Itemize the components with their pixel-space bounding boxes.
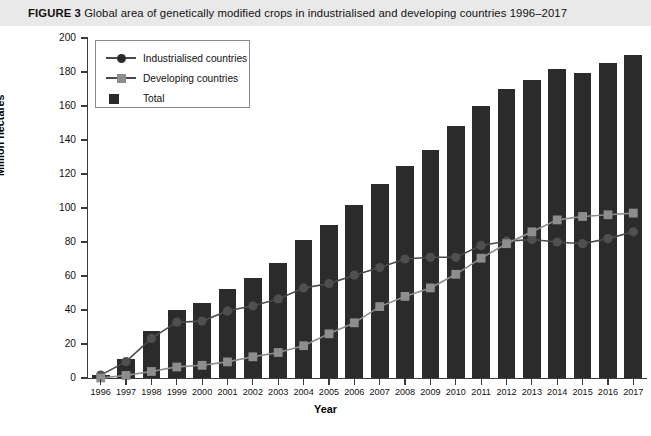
x-axis-tick-label-2010: 2010 bbox=[442, 387, 470, 397]
square-line-marker-icon bbox=[106, 71, 136, 85]
x-axis-tick-label-2011: 2011 bbox=[467, 387, 495, 397]
x-axis-tick bbox=[202, 379, 203, 385]
marker-developing-countries-2013 bbox=[528, 227, 537, 236]
marker-developing-countries-2012 bbox=[502, 239, 511, 248]
marker-developing-countries-2015 bbox=[578, 212, 587, 221]
marker-industrialised-countries-2001 bbox=[223, 306, 232, 315]
x-axis-tick bbox=[481, 379, 482, 385]
y-axis-tick-label: 200 bbox=[42, 33, 76, 43]
marker-industrialised-countries-2004 bbox=[299, 283, 308, 292]
line-industrialised-countries bbox=[101, 232, 634, 375]
marker-developing-countries-2007 bbox=[375, 302, 384, 311]
legend-label-total: Total bbox=[143, 93, 165, 104]
y-axis-tick bbox=[81, 105, 88, 106]
marker-developing-countries-2016 bbox=[604, 210, 613, 219]
x-axis-tick-label-2008: 2008 bbox=[391, 387, 419, 397]
line-developing-countries bbox=[101, 213, 634, 378]
y-axis-tick bbox=[81, 343, 88, 344]
x-axis-tick bbox=[404, 379, 405, 385]
y-axis-tick-label: 40 bbox=[42, 305, 76, 315]
y-axis-tick-label: 120 bbox=[42, 169, 76, 179]
y-axis-tick bbox=[81, 309, 88, 310]
y-axis-tick-label: 100 bbox=[42, 203, 76, 213]
y-axis-tick-label: 80 bbox=[42, 237, 76, 247]
marker-industrialised-countries-2008 bbox=[400, 254, 409, 263]
y-axis-tick bbox=[81, 139, 88, 140]
chart-legend: Industrialised countries Developing coun… bbox=[95, 40, 250, 108]
y-axis-tick bbox=[81, 71, 88, 72]
x-axis-tick bbox=[100, 379, 101, 385]
marker-industrialised-countries-1999 bbox=[172, 318, 181, 327]
y-axis-tick-label: 160 bbox=[42, 101, 76, 111]
marker-industrialised-countries-2011 bbox=[477, 241, 486, 250]
marker-industrialised-countries-2017 bbox=[629, 227, 638, 236]
y-axis-tick bbox=[81, 241, 88, 242]
legend-item-total: Total bbox=[106, 88, 249, 108]
x-axis-tick-label-1996: 1996 bbox=[87, 387, 115, 397]
y-axis-tick bbox=[81, 377, 88, 378]
x-axis-tick bbox=[354, 379, 355, 385]
x-axis-tick bbox=[531, 379, 532, 385]
filled-square-marker-icon bbox=[106, 91, 136, 105]
x-axis-tick bbox=[557, 379, 558, 385]
marker-industrialised-countries-1998 bbox=[147, 334, 156, 343]
marker-developing-countries-2008 bbox=[401, 292, 410, 301]
x-axis-tick bbox=[278, 379, 279, 385]
marker-developing-countries-1999 bbox=[172, 363, 181, 372]
x-axis-tick-label-2014: 2014 bbox=[543, 387, 571, 397]
y-axis-tick-label: 20 bbox=[42, 339, 76, 349]
x-axis-tick-label-2002: 2002 bbox=[239, 387, 267, 397]
x-axis-tick bbox=[379, 379, 380, 385]
marker-industrialised-countries-2014 bbox=[553, 237, 562, 246]
marker-industrialised-countries-2015 bbox=[578, 239, 587, 248]
figure-caption-text: Global area of genetically modified crop… bbox=[84, 7, 567, 19]
marker-developing-countries-2010 bbox=[451, 270, 460, 279]
y-axis-tick bbox=[81, 37, 88, 38]
x-axis-tick bbox=[430, 379, 431, 385]
x-axis-tick bbox=[582, 379, 583, 385]
marker-industrialised-countries-2010 bbox=[451, 253, 460, 262]
marker-developing-countries-1998 bbox=[147, 367, 156, 376]
marker-industrialised-countries-2009 bbox=[426, 253, 435, 262]
x-axis-tick-label-2004: 2004 bbox=[290, 387, 318, 397]
marker-industrialised-countries-2000 bbox=[198, 317, 207, 326]
x-axis-tick bbox=[227, 379, 228, 385]
y-axis-title: Million hectares bbox=[0, 94, 6, 176]
x-axis-tick bbox=[176, 379, 177, 385]
chart-plot-area: 020406080100120140160180200 Million hect… bbox=[0, 26, 651, 436]
figure-number: FIGURE 3 bbox=[28, 7, 81, 19]
marker-developing-countries-2001 bbox=[223, 358, 232, 367]
x-axis-tick bbox=[252, 379, 253, 385]
x-axis-tick-label-2005: 2005 bbox=[315, 387, 343, 397]
marker-industrialised-countries-2003 bbox=[274, 294, 283, 303]
x-axis-tick-label-2007: 2007 bbox=[366, 387, 394, 397]
x-axis-tick-label-2012: 2012 bbox=[493, 387, 521, 397]
marker-industrialised-countries-2016 bbox=[603, 234, 612, 243]
x-axis-tick-label-1997: 1997 bbox=[112, 387, 140, 397]
y-axis-tick-label: 140 bbox=[42, 135, 76, 145]
x-axis-tick bbox=[607, 379, 608, 385]
marker-industrialised-countries-1997 bbox=[121, 357, 130, 366]
marker-developing-countries-2006 bbox=[350, 318, 359, 327]
marker-industrialised-countries-2006 bbox=[350, 271, 359, 280]
y-axis-tick bbox=[81, 207, 88, 208]
y-axis-tick-labels: 020406080100120140160180200 bbox=[36, 26, 76, 436]
x-axis-tick-label-1998: 1998 bbox=[137, 387, 165, 397]
marker-industrialised-countries-2013 bbox=[527, 235, 536, 244]
marker-industrialised-countries-2002 bbox=[248, 301, 257, 310]
marker-developing-countries-2011 bbox=[477, 254, 486, 263]
marker-developing-countries-2005 bbox=[325, 329, 334, 338]
x-axis-line bbox=[87, 378, 647, 379]
x-axis-title: Year bbox=[0, 403, 651, 415]
marker-developing-countries-2004 bbox=[299, 341, 308, 350]
x-axis-tick-label-1999: 1999 bbox=[163, 387, 191, 397]
x-axis-tick-label-2009: 2009 bbox=[416, 387, 444, 397]
y-axis-tick-label: 0 bbox=[42, 373, 76, 383]
x-axis-tick-label-2017: 2017 bbox=[619, 387, 647, 397]
y-axis-tick-label: 60 bbox=[42, 271, 76, 281]
x-axis-tick-label-2016: 2016 bbox=[594, 387, 622, 397]
x-axis-tick bbox=[303, 379, 304, 385]
x-axis-tick-label-2006: 2006 bbox=[340, 387, 368, 397]
figure-caption: FIGURE 3 Global area of genetically modi… bbox=[28, 7, 567, 19]
y-axis-tick bbox=[81, 173, 88, 174]
